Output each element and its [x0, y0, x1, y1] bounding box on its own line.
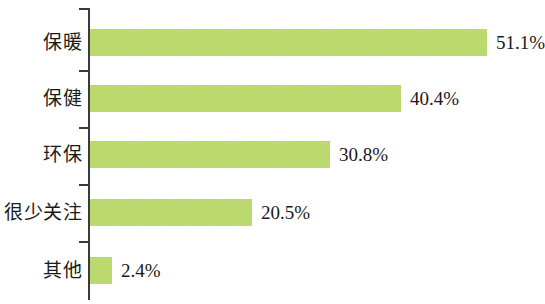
- bar: [90, 199, 252, 226]
- bar-row: 保健 40.4%: [0, 85, 545, 112]
- bar: [90, 141, 330, 168]
- bar-value-label: 40.4%: [410, 85, 459, 112]
- axis-tick: [79, 184, 88, 186]
- category-label: 保暖: [43, 29, 82, 56]
- axis-tick: [79, 8, 88, 10]
- horizontal-bar-chart: 保暖 51.1% 保健 40.4% 环保 30.8% 很少关注 20.5% 其他…: [0, 0, 545, 304]
- bar: [90, 85, 401, 112]
- category-label: 其他: [43, 257, 82, 284]
- axis-tick: [79, 70, 88, 72]
- category-label: 保健: [43, 85, 82, 112]
- bar: [90, 29, 487, 56]
- category-label: 很少关注: [4, 199, 82, 226]
- bar-value-label: 2.4%: [121, 257, 161, 284]
- bar: [90, 257, 112, 284]
- bar-value-label: 30.8%: [339, 141, 388, 168]
- bar-row: 保暖 51.1%: [0, 29, 545, 56]
- bar-row: 很少关注 20.5%: [0, 199, 545, 226]
- bar-value-label: 51.1%: [496, 29, 545, 56]
- bar-row: 环保 30.8%: [0, 141, 545, 168]
- axis-tick: [79, 127, 88, 129]
- category-label: 环保: [43, 141, 82, 168]
- bar-row: 其他 2.4%: [0, 257, 545, 284]
- bar-value-label: 20.5%: [261, 199, 310, 226]
- axis-tick: [79, 241, 88, 243]
